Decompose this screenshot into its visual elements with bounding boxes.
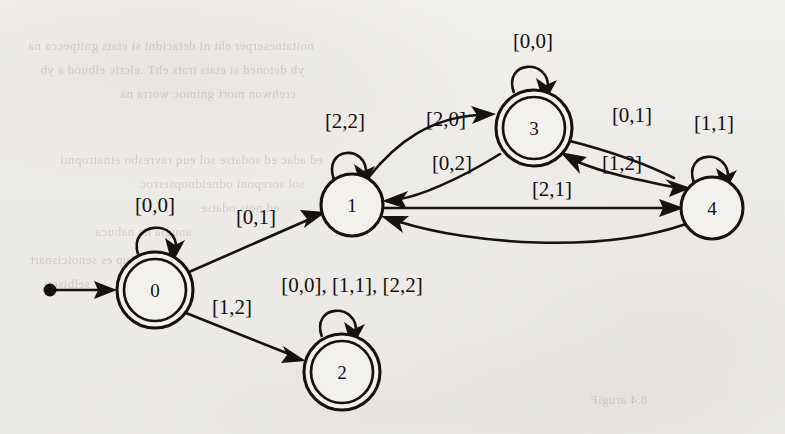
state-0-label: 0 [150, 280, 160, 301]
edge-4-to-1 [381, 216, 686, 243]
state-3-label: 3 [529, 118, 539, 139]
edge-0-to-2-arrow [281, 346, 306, 363]
state-node-4[interactable]: 4 [681, 177, 743, 239]
edge-1-to-4-label: [2,1] [532, 177, 572, 201]
self-loop-4-label: [1,1] [694, 111, 734, 135]
edge-0-to-1-label: [0,1] [236, 205, 276, 229]
edge-3-to-1-label: [0,2] [432, 151, 472, 175]
edge-1-to-4 [384, 199, 684, 217]
edge-4-to-3-label: [1,2] [602, 151, 642, 175]
edge-4-to-1-line [400, 222, 686, 243]
edge-3-to-1-arrow [382, 191, 408, 209]
state-node-1[interactable]: 1 [321, 174, 383, 236]
state-machine-diagram: 0 1 2 3 4 [0,0] [2, [0, 0, 785, 434]
figure-page: noitatneserper eht ni detacidni si etats… [0, 0, 785, 434]
self-loop-0-label: [0,0] [135, 193, 175, 217]
state-node-3[interactable]: 3 [496, 90, 572, 166]
state-node-0[interactable]: 0 [117, 252, 193, 328]
edge-0-to-2 [186, 313, 306, 363]
edge-1-to-3-label: [2,0] [426, 107, 466, 131]
self-loop-1-label: [2,2] [325, 109, 365, 133]
edge-3-to-4-label: [0,1] [612, 103, 652, 127]
edge-0-to-2-label: [1,2] [212, 295, 252, 319]
state-1-label: 1 [347, 195, 357, 216]
edge-0-to-2-line [186, 313, 289, 354]
self-loop-3-label: [0,0] [513, 29, 553, 53]
node-group: 0 1 2 3 4 [117, 90, 743, 410]
label-group: [0,0] [2,2] [0,0], [1,1], [2,2] [0,0] [1… [135, 29, 734, 319]
state-node-2[interactable]: 2 [304, 334, 380, 410]
self-loop-2-label: [0,0], [1,1], [2,2] [281, 273, 423, 297]
state-2-label: 2 [337, 362, 347, 383]
start-arrow [44, 281, 118, 299]
state-4-label: 4 [707, 198, 717, 219]
